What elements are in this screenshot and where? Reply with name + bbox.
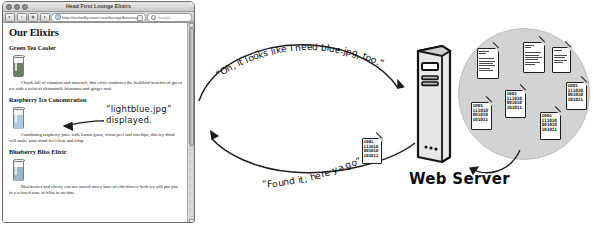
address-bar[interactable]: http://wickedlysmart.com/lounge/beverage… <box>51 13 146 22</box>
stop-button[interactable] <box>28 13 38 22</box>
browser-titlebar: Head First Lounge Elixirs <box>3 2 194 12</box>
address-bar-value: http://wickedlysmart.com/lounge/beverage… <box>62 15 141 20</box>
elixir-title: Blueberry Bliss Elixir <box>9 148 182 155</box>
search-input[interactable]: Google <box>147 13 192 22</box>
inflight-file-icon: 1001111010001010101011 <box>362 138 382 164</box>
arc-char: d <box>288 175 295 187</box>
rss-icon[interactable] <box>137 15 143 21</box>
browser-toolbar: http://wickedlysmart.com/lounge/beverage… <box>3 12 194 23</box>
elixir-title: Green Tea Cooler <box>9 44 182 51</box>
binary-content: 1001111010001010101011 <box>568 84 586 102</box>
arc-char: s <box>262 47 270 59</box>
elixir-image-blueberry <box>9 158 182 184</box>
web-server-label: Web Server <box>409 170 510 188</box>
response-arrow-path <box>212 139 415 173</box>
arc-char: d <box>312 41 318 52</box>
diagram-canvas: Head First Lounge Elixirs http://wickedl… <box>0 0 605 230</box>
home-button[interactable] <box>40 13 50 22</box>
glass-icon <box>13 158 24 182</box>
server-file-html <box>523 42 545 73</box>
vertical-scrollbar[interactable] <box>187 23 194 223</box>
page-title: Our Elixirs <box>9 27 182 38</box>
back-button[interactable] <box>5 13 15 22</box>
server-file-html <box>552 47 571 73</box>
glass-icon <box>13 54 24 78</box>
search-icon <box>151 15 156 20</box>
server-file-image: 1001111010001010101011 <box>505 90 526 118</box>
elixir-entry-green-tea: Green Tea Cooler Chock full of vitamins … <box>9 44 182 92</box>
response-arrow-head <box>208 130 217 140</box>
glass-icon <box>13 106 24 130</box>
elixir-entry-blueberry: Blueberry Bliss Elixir Blueberries and c… <box>9 148 182 196</box>
arc-char: e <box>280 43 287 55</box>
elixir-description: Combining raspberry juice with lemon gra… <box>9 132 182 144</box>
globe-icon <box>55 14 61 20</box>
lightblue-callout-line-2: displayed. <box>106 115 172 126</box>
forward-button[interactable] <box>17 13 27 22</box>
lightblue-callout: “lightblue.jpg” displayed. <box>106 104 172 126</box>
arc-char: I <box>289 42 293 53</box>
server-file-html <box>477 48 499 79</box>
search-placeholder: Google <box>157 15 171 20</box>
window-title: Head First Lounge Elixirs <box>3 3 194 9</box>
server-file-image: 1001111010001010101011 <box>540 112 561 140</box>
server-tower-icon <box>414 43 454 165</box>
server-file-image: 1001111010001010101011 <box>566 82 587 110</box>
binary-content: 1001111010001010101011 <box>542 114 560 132</box>
elixir-image-green-tea <box>9 54 182 80</box>
binary-content: 1001111010001010101011 <box>364 140 381 158</box>
binary-content: 1001111010001010101011 <box>507 92 525 110</box>
binary-content: 1001111010001010101011 <box>473 104 491 122</box>
elixir-description: Chock full of vitamins and minerals, thi… <box>9 80 182 92</box>
scrollbar-thumb[interactable] <box>189 28 194 146</box>
lightblue-callout-line-1: “lightblue.jpg” <box>106 104 172 115</box>
scroll-down-arrow[interactable] <box>189 219 194 223</box>
server-file-image: 1001111010001010101011 <box>471 102 492 130</box>
elixir-title: Raspberry Ice Concentration <box>9 96 182 103</box>
elixir-description: Blueberries and cherry essence mixed int… <box>9 184 182 196</box>
